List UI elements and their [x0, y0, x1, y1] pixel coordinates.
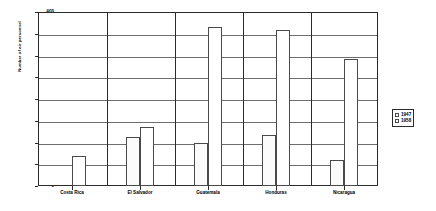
bar: [344, 59, 358, 186]
x-axis-category-label: Guatemala: [174, 191, 242, 196]
legend-swatch-1958-icon: [395, 119, 399, 123]
bar: [330, 160, 344, 186]
legend-label-1947: 1947: [401, 113, 411, 118]
bar-chart: Number of air personnel 0501001502002503…: [0, 0, 436, 211]
bar-group: [106, 12, 174, 186]
bar: [208, 27, 222, 186]
bar-group: [174, 12, 242, 186]
legend-item-1947[interactable]: 1947: [395, 113, 411, 118]
bar-group: [310, 12, 378, 186]
legend-swatch-1947-icon: [395, 113, 399, 117]
legend-item-1958[interactable]: 1958: [395, 119, 411, 124]
bar-group: [38, 12, 106, 186]
legend: 1947 1958: [392, 109, 414, 127]
bar: [194, 143, 208, 187]
legend-label-1958: 1958: [401, 119, 411, 124]
bar: [126, 137, 140, 186]
x-axis-category-label: Honduras: [242, 191, 310, 196]
bar-group: [242, 12, 310, 186]
bar: [276, 30, 290, 186]
x-axis-category-label: Costa Rica: [38, 191, 106, 196]
bar: [72, 156, 86, 186]
bar: [262, 135, 276, 186]
x-axis-category-label: Nicaragua: [310, 191, 378, 196]
x-axis-category-label: El Salvador: [106, 191, 174, 196]
bars-layer: [38, 12, 378, 186]
bar: [140, 127, 154, 186]
y-axis-title: Number of air personnel: [17, 0, 22, 102]
y-axis-tick-mark: [35, 186, 38, 187]
